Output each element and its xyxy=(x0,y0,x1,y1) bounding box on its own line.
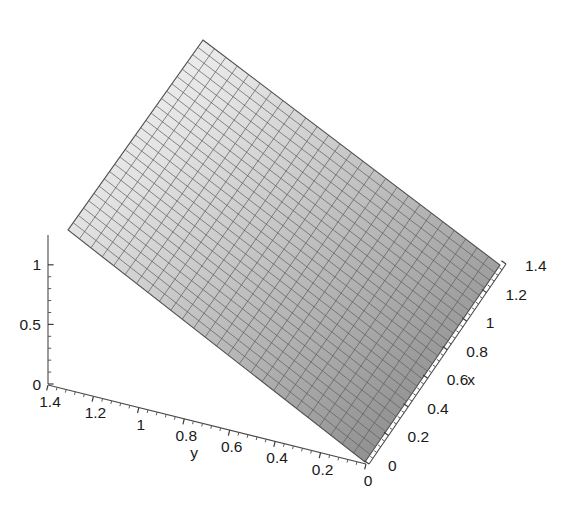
z-axis-ticks xyxy=(48,265,54,384)
x-axis-title: x xyxy=(467,371,475,388)
y-axis-title: y xyxy=(190,444,198,461)
y-tick-label: 0.4 xyxy=(266,449,288,466)
x-tick-label: 0 xyxy=(388,457,397,474)
z-tick-label: 0.5 xyxy=(19,316,41,333)
y-tick-label: 0.6 xyxy=(221,438,243,455)
x-tick-label: 0.8 xyxy=(466,343,488,360)
z-tick-label: 1 xyxy=(32,256,41,273)
x-tick-label: 1.2 xyxy=(505,286,527,303)
plot-canvas: 00.51 1.41.210.80.60.40.20 y 00.20.40.60… xyxy=(0,0,566,524)
x-tick-label: 0.6 xyxy=(447,371,469,388)
y-tick-label: 0.8 xyxy=(176,427,198,444)
x-tick-label: 0.4 xyxy=(427,400,449,417)
z-axis-tick-labels: 00.51 xyxy=(19,256,41,392)
y-tick-label: 1.2 xyxy=(85,404,107,421)
surface-mesh xyxy=(68,40,500,462)
x-tick-label: 0.2 xyxy=(408,428,430,445)
x-tick-label: 1.4 xyxy=(525,257,547,274)
x-tick-label: 1 xyxy=(486,314,495,331)
y-tick-label: 1.4 xyxy=(39,393,61,410)
y-tick-label: 0.2 xyxy=(312,461,334,478)
y-tick-label: 1 xyxy=(137,416,146,433)
y-tick-label: 0 xyxy=(364,472,373,489)
z-axis: 00.51 xyxy=(19,235,53,393)
z-tick-label: 0 xyxy=(32,376,41,393)
surface-plot-figure: 00.51 1.41.210.80.60.40.20 y 00.20.40.60… xyxy=(0,0,566,524)
